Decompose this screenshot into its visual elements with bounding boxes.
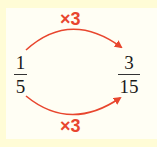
top-arrow-icon — [26, 29, 121, 50]
fraction-bar — [118, 74, 140, 75]
bottom-multiplier-label: ×3 — [60, 117, 81, 135]
right-denominator: 15 — [118, 78, 140, 96]
left-numerator: 1 — [14, 54, 27, 72]
bottom-arrow-icon — [26, 96, 120, 115]
left-denominator: 5 — [14, 78, 27, 96]
left-fraction: 1 5 — [14, 54, 27, 96]
top-multiplier-label: ×3 — [60, 10, 81, 28]
fraction-bar — [14, 74, 27, 75]
right-numerator: 3 — [118, 54, 140, 72]
right-fraction: 3 15 — [118, 54, 140, 96]
